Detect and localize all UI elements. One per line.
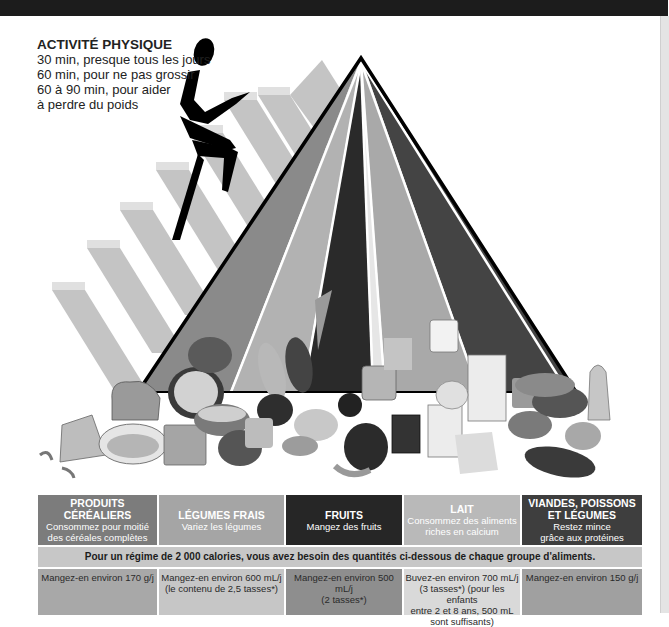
- raisins-box-icon: [392, 415, 420, 453]
- group-header-milk: LAIT Consommez des aliments riches en ca…: [404, 495, 522, 545]
- broccoli-icon: [188, 337, 232, 373]
- tortilla-icon: [60, 415, 106, 462]
- juice-glass-icon: [384, 338, 412, 370]
- chicken-leg-icon: [565, 422, 601, 450]
- can-icon: [245, 418, 273, 448]
- sausages-icon: [515, 373, 575, 397]
- amount-fruits: Mangez-en environ 500 mL/j (2 tasses*): [286, 569, 404, 615]
- activity-line: 60 min, pour ne pas grossir: [37, 67, 210, 82]
- milk-carton-icon: [468, 355, 506, 421]
- group-header-cereals: PRODUITS CÉRÉALIERS Consommez pour moiti…: [38, 495, 159, 545]
- apple-icon: [344, 423, 388, 471]
- group-header-vegetables: LÉGUMES FRAIS Variez les légumes: [159, 495, 286, 545]
- activity-line: 60 à 90 min, pour aider: [37, 82, 210, 97]
- amounts-row: Mangez-en environ 170 g/j Mangez-en envi…: [38, 567, 642, 615]
- group-headers-row: PRODUITS CÉRÉALIERS Consommez pour moiti…: [38, 495, 642, 545]
- amount-meat-beans: Mangez-en environ 150 g/j: [522, 569, 642, 615]
- milk-glass-icon: [430, 320, 458, 352]
- carrot-icon: [282, 436, 318, 456]
- activity-title: ACTIVITÉ PHYSIQUE: [37, 37, 210, 52]
- crackers-icon: [164, 425, 206, 465]
- oil-bottle-icon: [588, 365, 610, 420]
- amount-milk: Buvez-en environ 700 mL/j (3 tasses*) (p…: [404, 569, 522, 615]
- grapes-icon: [338, 393, 362, 417]
- food-groups-table: PRODUITS CÉRÉALIERS Consommez pour moiti…: [38, 495, 642, 615]
- activity-line: à perdre du poids: [37, 97, 210, 112]
- yogurt-icon: [436, 381, 468, 409]
- amount-cereals: Mangez-en environ 170 g/j: [38, 569, 159, 615]
- group-header-fruits: FRUITS Mangez des fruits: [286, 495, 404, 545]
- amount-vegetables: Mangez-en environ 600 mL/j (le contenu d…: [159, 569, 286, 615]
- activity-line: 30 min, presque tous les jours: [37, 52, 210, 67]
- group-header-meat-beans: VIANDES, POISSONS ET LÉGUMES Restez minc…: [522, 495, 642, 545]
- peaches-can-icon: [362, 366, 396, 400]
- cheese-icon: [455, 432, 498, 474]
- calorie-banner: Pour un régime de 2 000 calories, vous a…: [38, 547, 642, 567]
- physical-activity-note: ACTIVITÉ PHYSIQUE 30 min, presque tous l…: [37, 37, 210, 112]
